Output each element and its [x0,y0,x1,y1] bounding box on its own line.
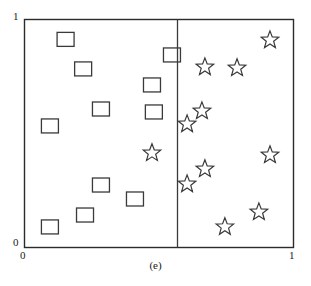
scatter-plot-figure: 1 0 0 1 (e) [0,0,311,286]
data-point-square [57,32,74,46]
data-point-square [75,62,92,76]
axes-border [25,20,294,248]
panel-caption: (e) [0,259,311,271]
data-point-star [178,175,196,192]
data-point-star [261,31,279,48]
y-axis-max-label: 1 [13,11,19,22]
squares-series [41,32,180,234]
data-point-square [126,192,143,206]
data-point-star [196,160,214,177]
data-point-star [193,102,211,119]
data-point-square [77,208,94,222]
data-point-star [250,203,268,220]
data-point-star [228,59,246,76]
data-point-square [92,102,109,116]
data-point-star [196,58,214,75]
plot-canvas [0,0,311,286]
data-point-square [41,119,58,133]
plot-frame [25,20,294,248]
data-point-square [143,78,160,92]
data-point-square [145,105,162,119]
data-point-star [143,144,161,161]
data-point-star [261,146,279,163]
data-point-star [178,115,196,132]
data-point-star [216,218,234,235]
data-point-square [92,178,109,192]
y-axis-min-label: 0 [13,237,19,248]
data-point-square [41,220,58,234]
